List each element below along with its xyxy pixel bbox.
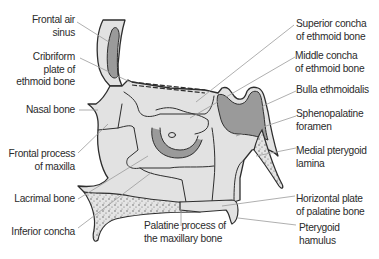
- label-line: of ethmoid bone: [295, 63, 364, 76]
- label-line: foramen: [296, 121, 363, 134]
- label-frontal-process-maxilla: Frontal process of maxilla: [9, 148, 75, 173]
- label-cribriform-plate: Cribriform plate of ethmoid bone: [16, 51, 75, 89]
- label-line: Cribriform: [16, 51, 75, 64]
- label-line: ethmoid bone: [16, 76, 75, 89]
- label-line: Frontal process: [9, 148, 75, 161]
- label-lacrimal-bone: Lacrimal bone: [14, 193, 75, 206]
- label-line: Bulla ethmoidalis: [296, 84, 369, 97]
- label-line: of maxilla: [9, 161, 75, 174]
- label-line: Palatine process of: [144, 220, 226, 233]
- label-line: Inferior concha: [11, 226, 75, 239]
- nasal-cavity-diagram: Frontal air sinus Cribriform plate of et…: [0, 0, 379, 259]
- label-line: Middle concha: [295, 50, 364, 63]
- label-inferior-concha: Inferior concha: [11, 226, 75, 239]
- label-line: Lacrimal bone: [14, 193, 75, 206]
- label-line: hamulus: [299, 235, 340, 248]
- label-middle-concha: Middle concha of ethmoid bone: [295, 50, 364, 75]
- label-line: of palatine bone: [296, 206, 365, 219]
- label-palatine-process-maxilla: Palatine process of the maxillary bone: [144, 220, 226, 245]
- label-superior-concha: Superior concha of ethmoid bone: [296, 18, 366, 43]
- label-sphenopalatine-foramen: Sphenopalatine foramen: [296, 108, 363, 133]
- label-line: Frontal air: [32, 14, 75, 27]
- label-line: Horizontal plate: [296, 193, 365, 206]
- label-frontal-air-sinus: Frontal air sinus: [32, 14, 75, 39]
- label-bulla-ethmoidalis: Bulla ethmoidalis: [296, 84, 369, 97]
- label-line: lamina: [296, 158, 367, 171]
- label-line: sinus: [32, 27, 75, 40]
- label-medial-pterygoid-lamina: Medial pterygoid lamina: [296, 145, 367, 170]
- label-line: of ethmoid bone: [296, 31, 366, 44]
- label-line: the maxillary bone: [144, 233, 226, 246]
- label-horizontal-plate-palatine: Horizontal plate of palatine bone: [296, 193, 365, 218]
- label-line: plate of: [16, 64, 75, 77]
- label-line: Sphenopalatine: [296, 108, 363, 121]
- label-line: Superior concha: [296, 18, 366, 31]
- label-line: Medial pterygoid: [296, 145, 367, 158]
- label-line: Nasal bone: [26, 104, 75, 117]
- label-nasal-bone: Nasal bone: [26, 104, 75, 117]
- label-pterygoid-hamulus: Pterygoid hamulus: [299, 222, 340, 247]
- label-line: Pterygoid: [299, 222, 340, 235]
